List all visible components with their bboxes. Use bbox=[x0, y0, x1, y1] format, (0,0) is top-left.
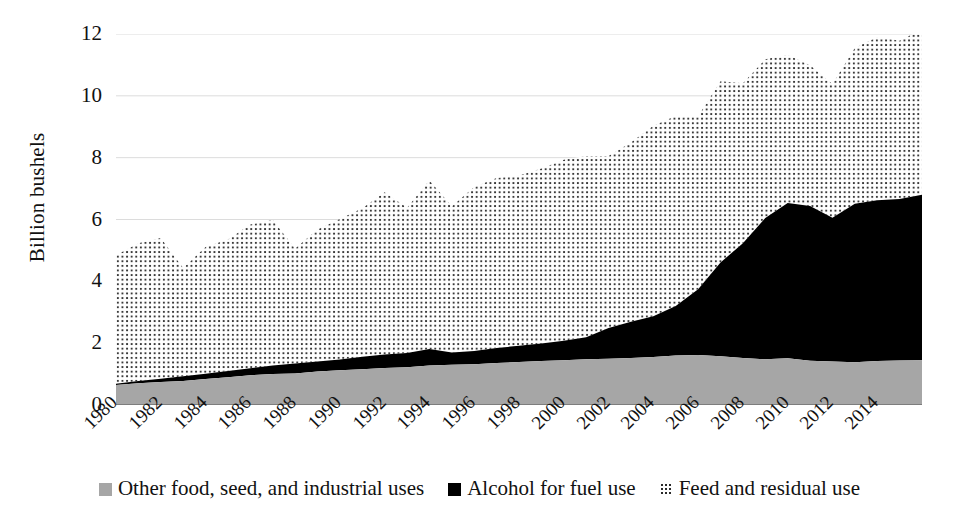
legend-swatch-gray bbox=[99, 483, 112, 496]
legend-label: Alcohol for fuel use bbox=[467, 476, 636, 501]
legend-label: Feed and residual use bbox=[679, 476, 860, 501]
y-axis-tick-label: 12 bbox=[62, 23, 102, 44]
y-axis-tick-label: 6 bbox=[62, 209, 102, 230]
plot-area bbox=[116, 34, 922, 405]
stacked-area-chart: Billion bushels 024681012 19801982198419… bbox=[0, 0, 959, 519]
chart-legend: Other food, seed, and industrial usesAlc… bbox=[0, 476, 959, 501]
y-axis-tick-label: 2 bbox=[62, 332, 102, 353]
legend-item[interactable]: Alcohol for fuel use bbox=[448, 476, 636, 501]
legend-item[interactable]: Feed and residual use bbox=[660, 476, 860, 501]
legend-item[interactable]: Other food, seed, and industrial uses bbox=[99, 476, 424, 501]
legend-label: Other food, seed, and industrial uses bbox=[118, 476, 424, 501]
y-axis-tick-label: 10 bbox=[62, 85, 102, 106]
legend-swatch-dotted bbox=[660, 483, 673, 496]
y-axis-title: Billion bushels bbox=[25, 68, 50, 328]
y-axis-tick-label: 8 bbox=[62, 147, 102, 168]
plot-svg bbox=[116, 34, 922, 405]
y-axis-tick-label: 4 bbox=[62, 270, 102, 291]
legend-swatch-black bbox=[448, 483, 461, 496]
